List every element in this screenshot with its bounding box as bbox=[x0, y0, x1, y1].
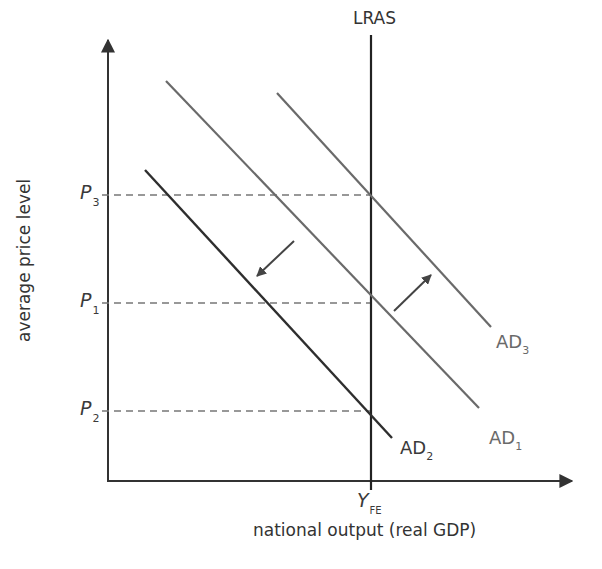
ad1-main: AD bbox=[489, 427, 515, 448]
p1-main: P bbox=[80, 289, 91, 311]
p3-label: P3 bbox=[80, 181, 99, 203]
ad2-label: AD2 bbox=[400, 437, 433, 458]
ad2-line bbox=[145, 170, 392, 438]
p1-label: P1 bbox=[80, 289, 99, 311]
ad1-label: AD1 bbox=[489, 427, 522, 448]
shift-right-arrow-icon bbox=[394, 275, 431, 311]
yfe-main: Y bbox=[357, 489, 369, 511]
y-axis-title: average price level bbox=[14, 179, 34, 342]
ad1-sub: 1 bbox=[515, 440, 522, 453]
x-axis-title: national output (real GDP) bbox=[253, 520, 476, 540]
ad3-label: AD3 bbox=[496, 331, 529, 352]
chart-canvas bbox=[0, 0, 602, 569]
lras-label: LRAS bbox=[353, 8, 396, 28]
yfe-sub: FE bbox=[370, 505, 382, 516]
p1-sub: 1 bbox=[92, 304, 99, 317]
yfe-label: YFE bbox=[357, 489, 382, 511]
p3-main: P bbox=[80, 181, 91, 203]
shift-left-arrow-icon bbox=[257, 241, 294, 276]
p2-sub: 2 bbox=[92, 412, 99, 425]
p3-sub: 3 bbox=[92, 196, 99, 209]
ad3-main: AD bbox=[496, 331, 522, 352]
p2-label: P2 bbox=[80, 397, 99, 419]
p2-main: P bbox=[80, 397, 91, 419]
ad2-main: AD bbox=[400, 437, 426, 458]
ad3-line bbox=[277, 93, 491, 327]
ad3-sub: 3 bbox=[522, 344, 529, 357]
ad2-sub: 2 bbox=[426, 450, 433, 463]
